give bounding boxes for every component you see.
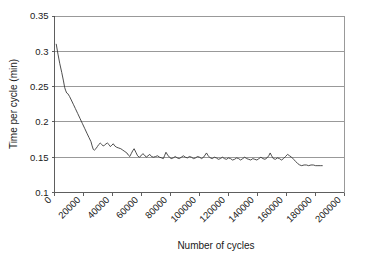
x-axis-title: Number of cycles [177,240,254,251]
x-tick-label: 200000 [313,194,343,224]
y-tick-label: 0.35 [30,10,49,21]
y-axis-title: Time per cycle (min) [8,59,19,149]
data-series-group [56,44,322,165]
gridlines [55,16,345,157]
x-tick-label: 120000 [197,194,227,224]
y-tick-label: 0.2 [35,116,48,127]
series-line [56,44,322,165]
x-tick-label: 80000 [143,194,169,220]
x-tick-label: 160000 [255,194,285,224]
y-tick-label: 0.15 [30,152,49,163]
x-tick-label: 40000 [85,194,111,220]
x-tick-label: 140000 [226,194,256,224]
x-axis-tick-labels: 0200004000060000800001000001200001400001… [42,194,343,224]
y-tick-label: 0.25 [30,81,49,92]
line-chart: 0.10.150.20.250.30.35 020000400006000080… [0,0,369,263]
x-tick-label: 20000 [56,194,82,220]
y-axis-tick-labels: 0.10.150.20.250.30.35 [30,10,49,198]
x-tick-label: 60000 [114,194,140,220]
chart-container: 0.10.150.20.250.30.35 020000400006000080… [0,0,369,263]
y-tick-label: 0.3 [35,46,48,57]
x-tick-label: 100000 [168,194,198,224]
x-tick-label: 180000 [284,194,314,224]
x-axis-tickmarks [55,193,345,197]
